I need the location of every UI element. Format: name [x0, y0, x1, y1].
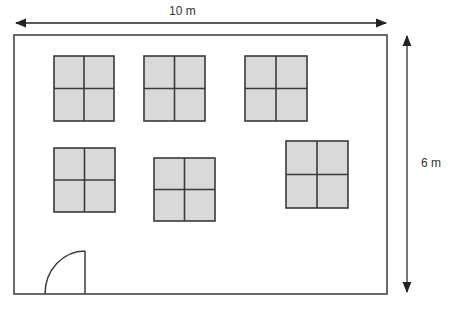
window-1 — [54, 56, 114, 121]
window-6 — [286, 141, 348, 208]
window-3 — [245, 56, 307, 121]
window-2 — [144, 56, 205, 121]
window-4 — [54, 148, 115, 212]
floor-plan-diagram — [0, 0, 458, 309]
window-5 — [154, 158, 215, 221]
width-label: 10 m — [169, 4, 196, 18]
height-label: 6 m — [421, 156, 441, 170]
